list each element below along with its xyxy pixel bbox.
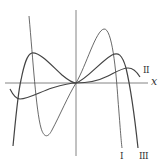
curve-III bbox=[13, 53, 138, 148]
curve-label-I: I bbox=[120, 152, 123, 161]
curve-label-III: III bbox=[139, 152, 148, 161]
curves-plot bbox=[0, 0, 164, 163]
curve-II bbox=[10, 68, 140, 99]
curve-I bbox=[29, 16, 122, 148]
curve-label-II: II bbox=[143, 66, 149, 75]
x-axis-label: x bbox=[151, 76, 157, 87]
diagram-canvas: x II I III bbox=[0, 0, 164, 163]
